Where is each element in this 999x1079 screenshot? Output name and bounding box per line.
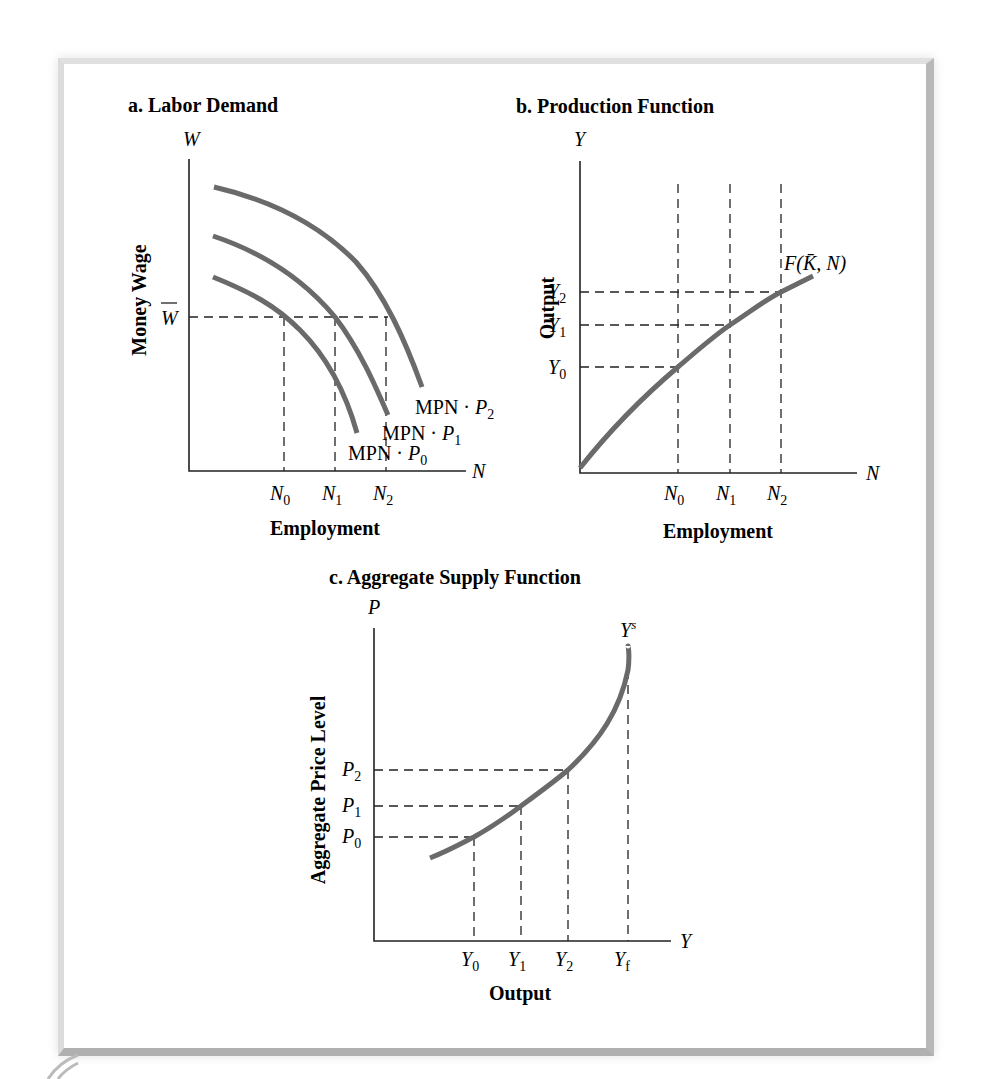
- y-axis-label-money-wage: Money Wage: [128, 244, 151, 355]
- tick-p0: P0: [341, 825, 361, 851]
- x-axis-symbol-n: N: [865, 462, 881, 484]
- x-axis-label-employment: Employment: [270, 517, 380, 540]
- tick-yf: Yf: [614, 948, 630, 974]
- curve-production-function: [580, 276, 813, 468]
- x-axis-label-employment: Employment: [663, 520, 773, 543]
- label-mpn-p0: MPN · P0: [348, 442, 427, 468]
- y-marker-wbar: W: [161, 307, 180, 329]
- y-axis-symbol-y: Y: [574, 128, 587, 150]
- x-axis-label-output: Output: [489, 982, 552, 1005]
- tick-p2: P2: [341, 758, 361, 784]
- figure-canvas: a. Labor Demand W Money Wage N W MPN · P…: [0, 0, 999, 1079]
- panel-production-function: b. Production Function Y Output N F(K̄, …: [516, 95, 881, 543]
- panel-labor-demand: a. Labor Demand W Money Wage N W MPN · P…: [128, 94, 494, 540]
- tick-y1: Y1: [508, 948, 526, 974]
- x-axis-symbol-y: Y: [680, 930, 693, 952]
- y-axis-label-aggregate-price-level: Aggregate Price Level: [307, 695, 330, 884]
- label-aggregate-supply: Ys: [620, 617, 636, 641]
- tick-y0: Y0: [461, 948, 479, 974]
- panel-b-axes: [580, 161, 857, 473]
- tick-y0: Y0: [548, 356, 566, 382]
- panel-aggregate-supply: c. Aggregate Supply Function P Aggregate…: [307, 566, 693, 1005]
- tick-n2: N2: [372, 482, 393, 508]
- tick-n1: N1: [715, 482, 736, 508]
- y-axis-symbol-p: P: [367, 596, 380, 618]
- tick-n2: N2: [766, 482, 787, 508]
- decorative-swoosh-icon: [48, 1055, 78, 1079]
- tick-n1: N1: [321, 482, 342, 508]
- curve-aggregate-supply: [430, 646, 629, 858]
- tick-n0: N0: [269, 482, 290, 508]
- curve-mpn-p2: [214, 187, 422, 387]
- tick-p1: P1: [341, 794, 361, 820]
- panel-b-title: b. Production Function: [516, 95, 714, 117]
- panel-a-title: a. Labor Demand: [128, 94, 278, 116]
- tick-n0: N0: [663, 482, 684, 508]
- panel-c-title: c. Aggregate Supply Function: [329, 566, 581, 589]
- label-mpn-p2: MPN · P2: [415, 396, 494, 422]
- y-axis-symbol-w: W: [183, 128, 202, 150]
- tick-y2: Y2: [555, 948, 573, 974]
- x-axis-symbol-n: N: [471, 460, 487, 482]
- curve-mpn-p1: [213, 236, 388, 415]
- label-production-function: F(K̄, N): [783, 252, 847, 275]
